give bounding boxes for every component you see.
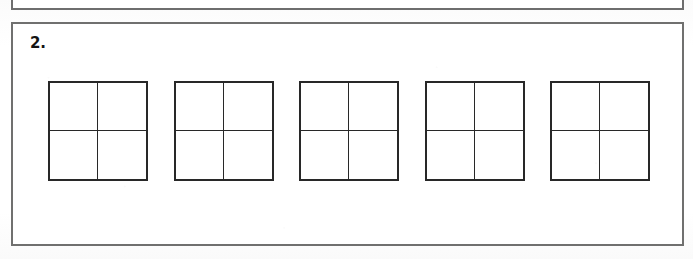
grid-cell[interactable]: [349, 83, 397, 131]
grid-cell[interactable]: [98, 131, 146, 179]
grid-cell[interactable]: [475, 131, 523, 179]
grid-figure-5[interactable]: [550, 81, 650, 181]
grid-cell[interactable]: [475, 83, 523, 131]
grid-cell[interactable]: [427, 83, 475, 131]
partial-exercise-box-above: [11, 0, 684, 10]
grid-figure-3[interactable]: [299, 81, 399, 181]
grid-figure-1[interactable]: [48, 81, 148, 181]
grid-figure-2[interactable]: [174, 81, 274, 181]
grid-cell[interactable]: [98, 83, 146, 131]
grid-cell[interactable]: [600, 83, 648, 131]
worksheet-page: 2.: [0, 0, 693, 259]
grid-cell[interactable]: [552, 131, 600, 179]
grid-cell[interactable]: [176, 83, 224, 131]
exercise-box-2: 2.: [11, 22, 684, 246]
exercise-number-label: 2.: [30, 34, 46, 52]
grid-cell[interactable]: [50, 83, 98, 131]
figure-row: [48, 81, 650, 183]
grid-cell[interactable]: [50, 131, 98, 179]
grid-cell[interactable]: [600, 131, 648, 179]
grid-cell[interactable]: [427, 131, 475, 179]
grid-cell[interactable]: [301, 131, 349, 179]
grid-cell[interactable]: [224, 131, 272, 179]
grid-figure-4[interactable]: [425, 81, 525, 181]
grid-cell[interactable]: [349, 131, 397, 179]
grid-cell[interactable]: [176, 131, 224, 179]
grid-cell[interactable]: [224, 83, 272, 131]
grid-cell[interactable]: [301, 83, 349, 131]
grid-cell[interactable]: [552, 83, 600, 131]
